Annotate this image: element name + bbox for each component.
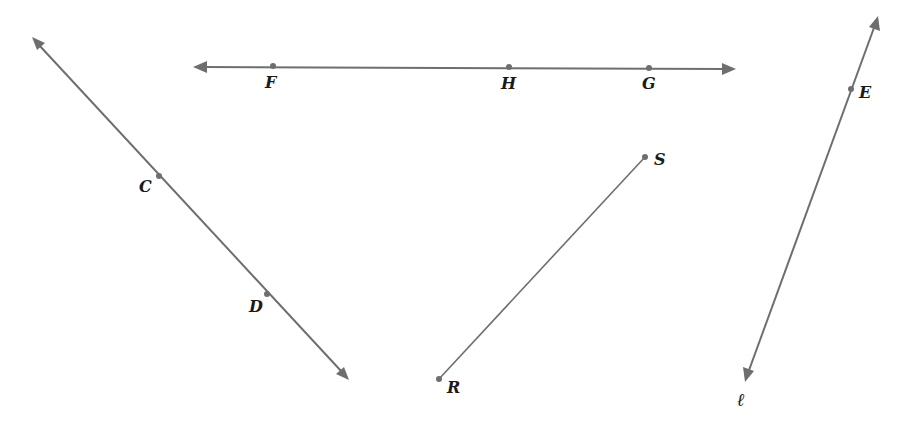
line-FG: F H G xyxy=(193,61,736,93)
arrowhead-right-icon xyxy=(722,63,736,75)
line-CD: C D xyxy=(32,37,349,380)
arrowhead-down-icon xyxy=(743,367,754,382)
label-R: R xyxy=(446,378,460,397)
point-E xyxy=(848,86,854,92)
label-S: S xyxy=(654,150,666,169)
label-E: E xyxy=(858,83,872,102)
point-S xyxy=(642,154,648,160)
point-R xyxy=(436,376,442,382)
point-H xyxy=(506,64,512,70)
point-F xyxy=(270,63,276,69)
label-G: G xyxy=(642,74,656,93)
geometry-diagram: F H G C D R S E ℓ xyxy=(0,0,906,423)
line-l: E ℓ xyxy=(737,16,880,410)
point-C xyxy=(156,173,162,179)
label-line-l: ℓ xyxy=(737,389,745,410)
label-F: F xyxy=(264,73,278,92)
label-D: D xyxy=(248,297,263,316)
segment-RS: R S xyxy=(436,150,666,397)
point-G xyxy=(646,65,652,71)
arrowhead-up-icon xyxy=(869,16,880,31)
label-C: C xyxy=(139,177,152,196)
label-H: H xyxy=(500,74,517,93)
point-D xyxy=(264,291,270,297)
arrowhead-left-icon xyxy=(193,61,207,73)
